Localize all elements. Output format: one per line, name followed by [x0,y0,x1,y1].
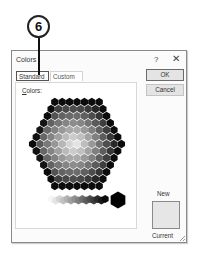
selected-large-swatch[interactable] [111,192,126,209]
color-swatch[interactable] [59,98,66,106]
color-swatch[interactable] [59,140,66,148]
color-swatch[interactable] [59,182,66,190]
color-swatch[interactable] [73,98,80,106]
color-swatch[interactable] [107,133,114,141]
color-swatch[interactable] [55,175,62,183]
color-swatch[interactable] [70,119,77,127]
color-swatch[interactable] [73,140,80,148]
color-swatch[interactable] [36,126,43,134]
color-swatch[interactable] [92,147,99,155]
color-swatch[interactable] [62,175,69,183]
color-swatch[interactable] [92,105,99,113]
color-swatch[interactable] [33,147,40,155]
color-swatch[interactable] [66,98,73,106]
color-swatch[interactable] [70,161,77,169]
color-swatch[interactable] [40,133,47,141]
color-swatch[interactable] [88,126,95,134]
color-swatch[interactable] [59,168,66,176]
color-swatch[interactable] [70,105,77,113]
color-swatch[interactable] [103,140,110,148]
color-swatch[interactable] [62,133,69,141]
color-swatch[interactable] [99,147,106,155]
color-swatch[interactable] [96,182,103,190]
color-swatch[interactable] [59,154,66,162]
close-icon[interactable]: ✕ [172,53,180,64]
color-swatch[interactable] [77,133,84,141]
color-swatch[interactable] [33,133,40,141]
color-swatch[interactable] [110,140,117,148]
color-swatch[interactable] [103,126,110,134]
color-swatch[interactable] [84,147,91,155]
color-swatch[interactable] [73,112,80,120]
color-swatch[interactable] [47,175,54,183]
color-swatch[interactable] [47,147,54,155]
color-swatch[interactable] [103,168,110,176]
color-swatch[interactable] [103,154,110,162]
color-swatch[interactable] [44,140,51,148]
color-swatch[interactable] [55,147,62,155]
color-swatch[interactable] [84,133,91,141]
color-swatch[interactable] [96,154,103,162]
color-swatch[interactable] [70,133,77,141]
color-swatch[interactable] [66,112,73,120]
color-swatch[interactable] [96,140,103,148]
color-swatch[interactable] [40,147,47,155]
color-swatch[interactable] [88,182,95,190]
color-swatch[interactable] [88,112,95,120]
color-swatch[interactable] [81,126,88,134]
color-swatch[interactable] [88,154,95,162]
color-swatch[interactable] [88,98,95,106]
color-swatch[interactable] [96,168,103,176]
color-swatch[interactable] [62,161,69,169]
color-swatch[interactable] [92,175,99,183]
color-swatch[interactable] [36,154,43,162]
cancel-button[interactable]: Cancel [146,84,184,96]
tab-standard[interactable]: Standard [16,71,49,81]
color-swatch[interactable] [88,168,95,176]
color-swatch[interactable] [66,140,73,148]
color-swatch[interactable] [77,147,84,155]
color-swatch[interactable] [47,133,54,141]
color-swatch[interactable] [55,133,62,141]
color-swatch[interactable] [96,112,103,120]
color-swatch[interactable] [81,154,88,162]
color-swatch[interactable] [44,126,51,134]
tab-custom[interactable]: Custom [50,71,83,81]
color-swatch[interactable] [51,168,58,176]
color-swatch[interactable] [77,119,84,127]
color-swatch[interactable] [103,112,110,120]
color-swatch[interactable] [40,161,47,169]
color-swatch[interactable] [51,126,58,134]
color-swatch[interactable] [44,112,51,120]
color-swatch[interactable] [107,161,114,169]
color-swatch[interactable] [84,161,91,169]
ok-button[interactable]: OK [146,69,184,81]
color-swatch[interactable] [92,119,99,127]
color-swatch[interactable] [51,154,58,162]
color-swatch[interactable] [73,168,80,176]
color-swatch[interactable] [84,175,91,183]
color-swatch[interactable] [84,119,91,127]
color-swatch[interactable] [66,154,73,162]
color-swatch[interactable] [114,133,121,141]
color-swatch[interactable] [62,119,69,127]
color-swatch[interactable] [99,133,106,141]
color-swatch[interactable] [118,140,125,148]
color-swatch[interactable] [99,105,106,113]
resize-grip[interactable] [180,236,185,241]
color-swatch[interactable] [96,98,103,106]
color-swatch[interactable] [77,175,84,183]
color-swatch[interactable] [81,168,88,176]
color-swatch[interactable] [66,182,73,190]
color-swatch[interactable] [51,98,58,106]
color-swatch[interactable] [107,119,114,127]
color-swatch[interactable] [62,147,69,155]
color-swatch[interactable] [51,140,58,148]
color-swatch[interactable] [51,182,58,190]
color-hexagon-palette[interactable] [16,83,138,230]
color-swatch[interactable] [110,154,117,162]
color-swatch[interactable] [47,119,54,127]
help-icon[interactable]: ? [154,55,158,64]
color-swatch[interactable] [81,112,88,120]
color-swatch[interactable] [96,126,103,134]
